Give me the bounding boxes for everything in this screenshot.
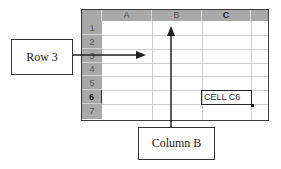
column-b-callout-label: Column B <box>152 136 202 151</box>
row-3-callout-label: Row 3 <box>26 50 58 65</box>
row-3-callout: Row 3 <box>11 39 73 75</box>
arrow-head-icon <box>136 51 146 59</box>
arrow-head-icon <box>167 26 175 36</box>
column-b-callout: Column B <box>138 127 215 160</box>
